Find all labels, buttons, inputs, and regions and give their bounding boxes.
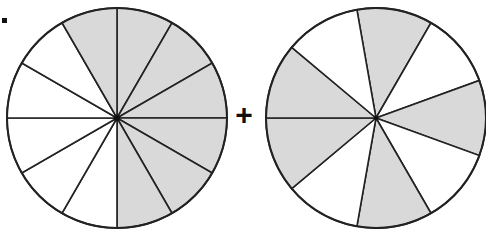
right-fraction-circle <box>266 8 486 228</box>
center-point <box>374 116 378 120</box>
left-fraction-circle <box>7 8 227 228</box>
center-point <box>114 115 120 121</box>
plus-operator: + <box>232 100 256 130</box>
